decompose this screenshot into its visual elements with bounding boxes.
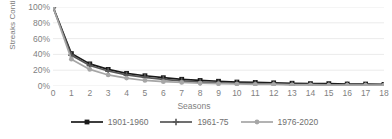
- series-3: [53, 7, 384, 86]
- x-axis-tick: 0: [45, 88, 61, 98]
- data-point: [216, 81, 221, 86]
- y-axis-tick: 60%: [16, 35, 50, 43]
- data-point: [254, 120, 259, 125]
- x-axis-tick: 11: [247, 88, 263, 98]
- legend-marker-square-icon: [70, 117, 104, 127]
- x-axis-tick: 12: [266, 88, 282, 98]
- data-point: [124, 76, 129, 81]
- legend-label: 1901-1960: [108, 117, 149, 127]
- data-point: [87, 67, 92, 72]
- chart-legend: 1901-19601961-751976-2020: [0, 117, 388, 127]
- data-point: [84, 120, 89, 125]
- x-axis-tick: 4: [119, 88, 135, 98]
- x-axis-tick: 17: [358, 88, 374, 98]
- legend-marker-plus-icon: [159, 117, 193, 127]
- plot-svg: [53, 7, 384, 86]
- x-axis-tick: 5: [137, 88, 153, 98]
- data-point: [69, 57, 74, 62]
- y-axis-tick: 40%: [16, 50, 50, 58]
- data-point: [161, 79, 166, 84]
- x-axis-tick-labels: 0123456789101112131415161718: [53, 88, 384, 100]
- legend-marker: [173, 119, 179, 125]
- y-axis-tick-labels: 0%20%40%60%80%100%: [14, 0, 50, 95]
- legend-label: 1961-75: [197, 117, 228, 127]
- series-line: [53, 7, 384, 85]
- legend-label: 1976-2020: [278, 117, 319, 127]
- x-axis-tick: 6: [155, 88, 171, 98]
- data-point: [179, 80, 184, 85]
- y-axis-tick: 80%: [16, 19, 50, 27]
- legend-marker: [84, 120, 89, 125]
- legend-item-3[interactable]: 1976-2020: [240, 117, 319, 127]
- x-axis-tick: 2: [82, 88, 98, 98]
- x-axis-tick: 14: [302, 88, 318, 98]
- x-axis-tick: 18: [376, 88, 392, 98]
- x-axis-tick: 8: [192, 88, 208, 98]
- legend-item-2[interactable]: 1961-75: [159, 117, 228, 127]
- x-axis-tick: 15: [321, 88, 337, 98]
- x-axis-tick: 9: [211, 88, 227, 98]
- x-axis-label: Seasons: [0, 101, 388, 111]
- y-axis-tick: 100%: [16, 3, 50, 11]
- x-axis-tick: 3: [100, 88, 116, 98]
- data-point: [106, 73, 111, 78]
- legend-item-1[interactable]: 1901-1960: [70, 117, 149, 127]
- plot-area: [53, 7, 384, 86]
- x-axis-tick: 1: [63, 88, 79, 98]
- x-axis-tick: 13: [284, 88, 300, 98]
- x-axis-tick: 7: [174, 88, 190, 98]
- data-point: [143, 78, 148, 83]
- data-point: [198, 81, 203, 86]
- x-axis-tick: 16: [339, 88, 355, 98]
- x-axis-tick: 10: [229, 88, 245, 98]
- y-axis-tick: 20%: [16, 66, 50, 74]
- legend-marker: [254, 120, 259, 125]
- legend-marker-circle-icon: [240, 117, 274, 127]
